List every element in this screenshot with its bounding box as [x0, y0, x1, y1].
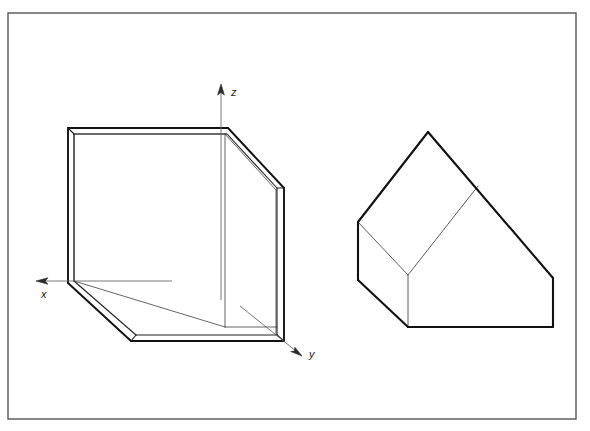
- axis-y-label: y: [308, 348, 316, 360]
- house-solid-figure: [358, 132, 553, 327]
- axis-x-label: x: [40, 288, 47, 300]
- open-box-figure: [68, 128, 284, 341]
- figure-page: z x y: [0, 0, 590, 431]
- axis-z-label: z: [230, 86, 237, 98]
- technical-drawing-canvas: z x y: [0, 0, 590, 431]
- box-right-wall-face: [225, 134, 277, 334]
